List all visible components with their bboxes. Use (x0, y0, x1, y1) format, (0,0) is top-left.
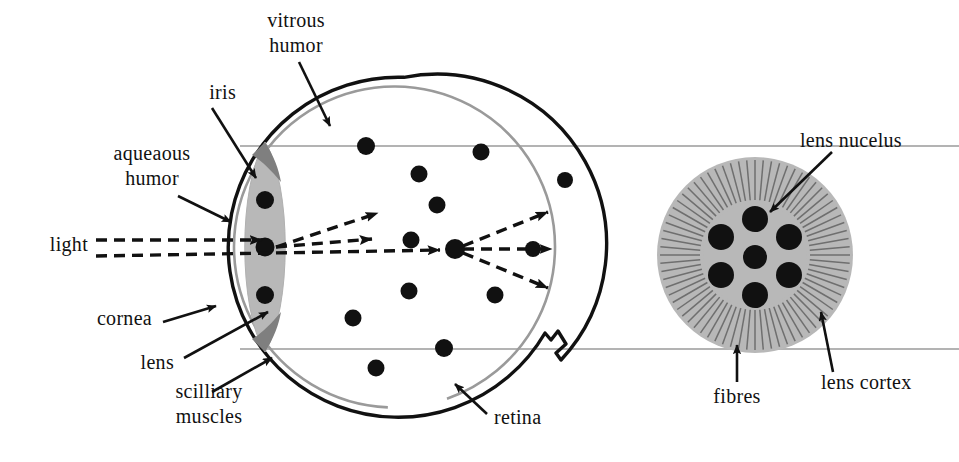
refracted-ray-2 (276, 239, 372, 247)
vitreous-particle (435, 339, 453, 357)
label-iris: iris (209, 80, 236, 105)
refracted-ray-1 (276, 213, 378, 247)
label-vitrous-humor: vitrous humor (267, 8, 325, 58)
vitreous-particle (403, 232, 420, 249)
label-scilliary-muscles: scilliary muscles (175, 379, 242, 429)
diverging-ray-3 (463, 253, 548, 288)
nucleus-dot (776, 224, 802, 250)
label-lens: lens (141, 350, 174, 375)
label-retina: retina (494, 405, 541, 430)
nucleus-dot (776, 262, 802, 288)
vitreous-particle (401, 283, 418, 300)
nucleus-dot (742, 282, 768, 308)
leader-aqueaous-humor (178, 196, 231, 222)
nucleus-dot (742, 206, 768, 232)
leader-cornea (163, 306, 216, 322)
vitreous-particle (357, 137, 375, 155)
vitreous-particle (345, 310, 362, 327)
vitreous-particle (557, 172, 573, 188)
vitreous-particle (368, 360, 385, 377)
nucleus-dot (708, 224, 734, 250)
vitreous-particle (473, 144, 490, 161)
label-aqueaous-humor: aqueaous humor (114, 141, 191, 191)
light-rays (96, 212, 552, 288)
lens-nucleus-dot (256, 286, 274, 304)
label-lens-nucelus: lens nucelus (800, 128, 902, 153)
leader-lens (184, 312, 268, 358)
nucleus-dot (743, 245, 767, 269)
label-cornea: cornea (97, 306, 152, 331)
label-lens-cortex: lens cortex (821, 370, 912, 395)
leader-iris (212, 108, 256, 178)
lens-nucleus-dot (256, 191, 274, 209)
incoming-ray-lower (96, 252, 330, 256)
label-fibres: fibres (713, 384, 760, 409)
vitreous-particle (411, 166, 428, 183)
vitreous-particle (429, 197, 446, 214)
eye-diagram-svg (0, 0, 959, 462)
refracted-ray-3 (330, 250, 440, 252)
eye-diagram-figure: vitrous humor iris aqueaous humor light … (0, 0, 959, 462)
label-light: light (50, 232, 88, 257)
diverging-ray-1 (463, 212, 548, 246)
focal-point-dot (445, 239, 465, 259)
vitreous-particle (487, 287, 504, 304)
nucleus-dot (708, 262, 734, 288)
